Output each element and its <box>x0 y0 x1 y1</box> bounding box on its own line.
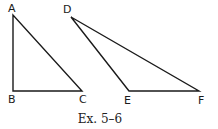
vertex-label-d: D <box>63 3 71 16</box>
vertex-label-e: E <box>124 94 131 107</box>
vertex-label-f: F <box>198 94 204 107</box>
vertex-label-a: A <box>8 2 16 15</box>
vertex-label-b: B <box>8 93 16 106</box>
figure-caption: Ex. 5–6 <box>78 112 122 126</box>
vertex-label-c: C <box>79 93 87 106</box>
triangle-def <box>71 17 199 91</box>
figure: A B C D E F Ex. 5–6 <box>0 0 218 129</box>
triangle-abc <box>13 15 82 91</box>
